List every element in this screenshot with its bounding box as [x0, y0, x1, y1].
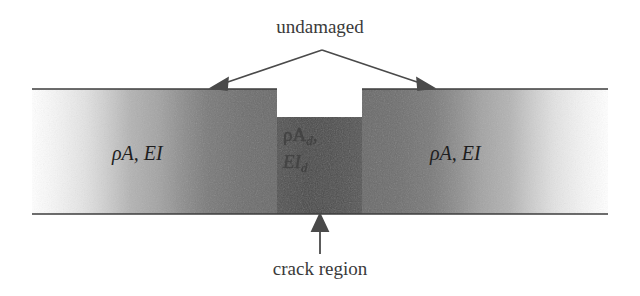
- crack-arrow-head: [312, 214, 328, 231]
- crack-property-line-2: EId: [283, 149, 317, 176]
- undamaged-arrow-right-head: [417, 78, 434, 90]
- crack-region-annotation-label: crack region: [0, 258, 640, 280]
- crack-ei: EI: [283, 151, 301, 172]
- right-segment-property-label: ρA, EI: [430, 142, 481, 165]
- crack-ei-subscript: d: [301, 160, 307, 175]
- crack-segment-property-label: ρAd, EId: [283, 122, 317, 176]
- beam-crack-diagram: undamaged ρA, EI ρA, EI ρAd, EId crack r…: [0, 0, 640, 296]
- undamaged-arrow-left-head: [211, 78, 228, 90]
- undamaged-arrow-right-shaft: [322, 50, 423, 84]
- crack-region-pointer-arrow: [312, 214, 328, 254]
- undamaged-annotation-label: undamaged: [0, 16, 640, 38]
- diagram-canvas: [0, 0, 640, 296]
- undamaged-arrow-left-shaft: [222, 50, 322, 84]
- left-segment-property-label: ρA, EI: [112, 142, 163, 165]
- crack-rho-a-comma: ,: [313, 124, 318, 145]
- beam-right-segment: [362, 89, 608, 214]
- crack-property-line-1: ρAd,: [283, 122, 317, 149]
- undamaged-pointer-arrows: [211, 50, 434, 90]
- notch-void: [277, 88, 362, 117]
- crack-rho-a: ρA: [283, 124, 306, 145]
